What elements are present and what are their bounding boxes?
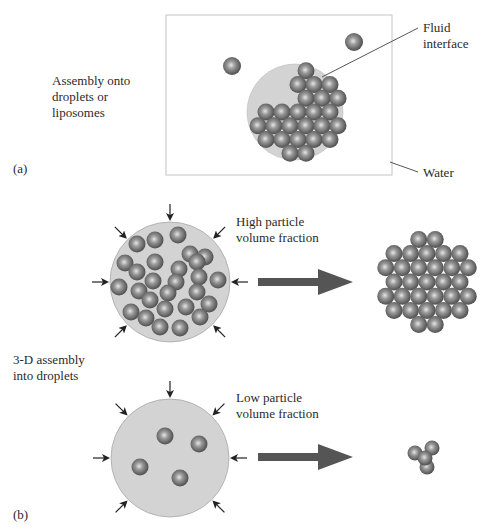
big-arrow-high bbox=[258, 269, 353, 295]
big-arrow-low bbox=[258, 444, 353, 470]
panel-a-description: Assembly onto droplets or liposomes bbox=[52, 73, 130, 121]
fluid-interface-leader bbox=[322, 28, 418, 77]
droplet-low bbox=[111, 399, 229, 517]
low-fraction-label: Low particle volume fraction bbox=[236, 390, 319, 422]
panel-b-tag: (b) bbox=[13, 507, 28, 523]
supraparticle-high bbox=[377, 231, 477, 333]
panel-b-description: 3-D assembly into droplets bbox=[13, 352, 85, 384]
water-leader bbox=[390, 162, 418, 172]
high-fraction-label: High particle volume fraction bbox=[236, 214, 319, 246]
supraparticle-low bbox=[408, 441, 440, 475]
panel-a bbox=[166, 15, 418, 175]
water-label: Water bbox=[423, 165, 454, 181]
panel-a-tag: (a) bbox=[13, 161, 27, 177]
fluid-interface-label: Fluid interface bbox=[423, 20, 468, 52]
